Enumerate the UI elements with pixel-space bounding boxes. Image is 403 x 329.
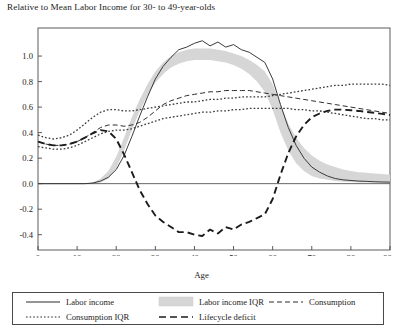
legend-swatch-longdash (158, 311, 194, 322)
plot-svg: 1.00.80.60.40.20.0-0.2-0.401020304050607… (0, 24, 403, 256)
legend-label-consumption-iqr: Consumption IQR (66, 312, 129, 322)
legend-item-lifecycle-deficit: Lifecycle deficit (158, 309, 256, 324)
legend-swatch-solid (25, 296, 61, 307)
svg-text:80: 80 (347, 253, 356, 256)
svg-text:90+: 90+ (383, 253, 397, 256)
svg-text:70: 70 (307, 253, 316, 256)
legend-swatch-dotted (25, 311, 61, 322)
legend-row-2: Consumption IQR Lifecycle deficit (13, 308, 383, 323)
svg-text:1.0: 1.0 (22, 51, 33, 61)
legend-label-labor-income-iqr: Labor income IQR (199, 297, 264, 307)
legend-label-lifecycle-deficit: Lifecycle deficit (199, 312, 256, 322)
legend-item-consumption: Consumption (268, 294, 355, 309)
chart-title: Relative to Mean Labor Income for 30- to… (7, 2, 215, 12)
x-axis-label: Age (0, 270, 403, 280)
legend-item-consumption-iqr: Consumption IQR (25, 309, 129, 324)
svg-text:0.0: 0.0 (22, 179, 33, 189)
plot-area: 1.00.80.60.40.20.0-0.2-0.401020304050607… (0, 24, 403, 256)
legend-label-consumption: Consumption (309, 297, 355, 307)
legend-item-labor-income: Labor income (25, 294, 114, 309)
chart-figure: Relative to Mean Labor Income for 30- to… (0, 0, 403, 329)
legend-row-1: Labor income Labor income IQR Consumptio… (13, 293, 383, 308)
legend-swatch-dashed (268, 296, 304, 307)
svg-text:20: 20 (112, 253, 121, 256)
legend-item-labor-income-iqr: Labor income IQR (158, 294, 264, 309)
svg-text:40: 40 (190, 253, 199, 256)
svg-text:0.8: 0.8 (22, 77, 33, 87)
svg-text:50: 50 (229, 253, 238, 256)
svg-text:0.2: 0.2 (22, 153, 33, 163)
svg-text:60: 60 (268, 253, 277, 256)
legend-label-labor-income: Labor income (66, 297, 114, 307)
chart-legend: Labor income Labor income IQR Consumptio… (12, 292, 384, 325)
svg-text:-0.4: -0.4 (19, 230, 33, 240)
svg-text:0.4: 0.4 (22, 128, 33, 138)
svg-text:10: 10 (73, 253, 82, 256)
svg-text:0: 0 (36, 253, 40, 256)
svg-text:0.6: 0.6 (22, 102, 33, 112)
legend-swatch-band (158, 296, 194, 307)
svg-text:30: 30 (151, 253, 160, 256)
svg-text:-0.2: -0.2 (19, 204, 33, 214)
